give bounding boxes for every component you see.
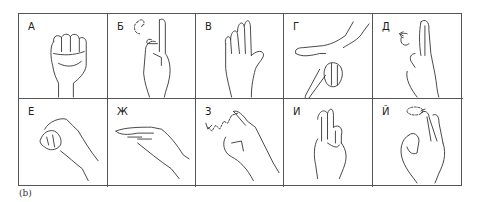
two-fingers-up-hand-icon [284,99,372,187]
index-up-hand-icon [108,14,195,98]
cell-letter-ye: Е [19,99,108,187]
index-tracing-hand-icon [196,99,283,187]
flat-horizontal-hand-icon [108,99,195,187]
fist-hand-icon [19,14,107,98]
cell-letter-ze: З [196,99,284,187]
pointing-down-hand-icon [284,14,372,98]
figure-caption: (b) [19,188,32,198]
cell-letter-ge: Г [284,14,373,99]
fingerspelling-chart: А Б В Г [18,13,462,186]
cell-letter-i: И [284,99,373,187]
cell-letter-be: Б [108,14,196,99]
flat-palm-hand-icon [196,14,283,98]
curved-fingers-hand-icon [19,99,107,187]
cell-letter-a: А [19,14,108,99]
two-fingers-side-hand-icon [373,14,463,98]
cell-letter-i-kratkoye: Й [373,99,463,187]
ok-two-fingers-hand-icon [373,99,463,187]
cell-letter-ve: В [196,14,284,99]
cell-letter-de: Д [373,14,463,99]
cell-letter-zhe: Ж [108,99,196,187]
